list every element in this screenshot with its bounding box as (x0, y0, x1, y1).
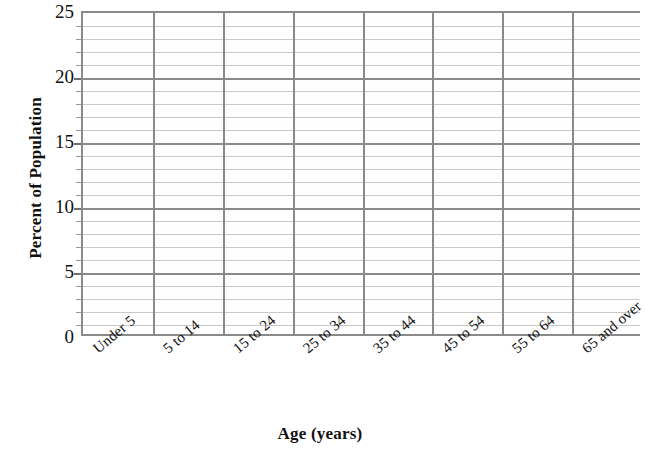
gridline-minor-horizontal (83, 286, 640, 287)
y-axis-tick-label: 5 (14, 262, 74, 281)
gridline-minor-horizontal (83, 169, 640, 170)
gridline-minor-horizontal (83, 260, 640, 261)
y-axis-tick-mark (76, 299, 81, 300)
gridline-minor-horizontal (83, 91, 640, 92)
y-axis-tick-label: 0 (14, 327, 74, 346)
gridline-minor-horizontal (83, 52, 640, 53)
gridline-major-horizontal (83, 78, 640, 80)
y-axis-tick-mark (76, 169, 81, 170)
y-axis-tick-mark (76, 312, 81, 313)
gridline-minor-horizontal (83, 39, 640, 40)
gridline-minor-horizontal (83, 104, 640, 105)
y-axis-tick-mark (76, 195, 81, 196)
gridline-minor-horizontal (83, 234, 640, 235)
gridline-vertical-category-separator (502, 13, 504, 334)
y-axis-tick-mark (76, 104, 81, 105)
y-axis-tick-mark (76, 39, 81, 40)
y-axis-tick-mark (74, 143, 81, 145)
gridline-vertical-category-separator (153, 13, 155, 334)
gridline-vertical-category-separator (572, 13, 574, 334)
y-axis-tick-mark (76, 130, 81, 131)
y-axis-tick-label: 25 (14, 2, 74, 21)
y-axis-tick-mark (74, 273, 81, 275)
gridline-vertical-category-separator (223, 13, 225, 334)
gridline-minor-horizontal (83, 26, 640, 27)
y-axis-tick-mark (76, 325, 81, 326)
gridline-minor-horizontal (83, 221, 640, 222)
gridline-minor-horizontal (83, 65, 640, 66)
y-axis-tick-mark (76, 117, 81, 118)
gridline-minor-horizontal (83, 117, 640, 118)
y-axis-tick-mark (76, 52, 81, 53)
y-axis-tick-mark (76, 247, 81, 248)
y-axis-tick-label: 10 (14, 197, 74, 216)
y-axis-tick-mark (76, 234, 81, 235)
y-axis-tick-mark (76, 260, 81, 261)
plot-area (81, 11, 640, 336)
gridline-minor-horizontal (83, 312, 640, 313)
gridline-minor-horizontal (83, 182, 640, 183)
gridline-vertical-category-separator (293, 13, 295, 334)
gridline-minor-horizontal (83, 195, 640, 196)
y-axis-tick-mark (74, 208, 81, 210)
y-axis-tick-mark (76, 65, 81, 66)
y-axis-tick-mark (76, 91, 81, 92)
y-axis-tick-mark (76, 221, 81, 222)
y-axis-tick-mark (76, 156, 81, 157)
gridline-major-horizontal (83, 143, 640, 145)
gridline-major-horizontal (83, 273, 640, 275)
gridline-minor-horizontal (83, 299, 640, 300)
y-axis-tick-mark (76, 286, 81, 287)
y-axis-tick-mark (76, 182, 81, 183)
y-axis-tick-label: 20 (14, 67, 74, 86)
y-axis-tick-mark (74, 78, 81, 80)
y-axis-tick-mark (76, 26, 81, 27)
x-axis-title: Age (years) (0, 424, 640, 444)
gridline-minor-horizontal (83, 130, 640, 131)
gridline-vertical-category-separator (432, 13, 434, 334)
gridline-major-horizontal (83, 208, 640, 210)
y-axis-tick-label: 15 (14, 132, 74, 151)
gridline-minor-horizontal (83, 247, 640, 248)
gridline-vertical-category-separator (363, 13, 365, 334)
gridline-minor-horizontal (83, 156, 640, 157)
